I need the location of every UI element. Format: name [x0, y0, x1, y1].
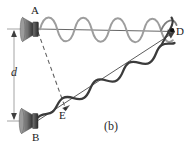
label-point-e: E [59, 110, 66, 121]
dashed-line-A-to-E [38, 32, 66, 109]
point-marker-D [170, 28, 174, 32]
label-point-d: D [176, 26, 184, 37]
loudspeaker-icon-A [20, 17, 38, 41]
label-separation-d: d [11, 66, 17, 78]
sound-wave-lower [34, 43, 175, 124]
loudspeaker-icon-B [19, 108, 38, 133]
figure-caption: (b) [104, 120, 118, 132]
label-speaker-b: B [32, 132, 39, 143]
wave-tail-upper [161, 20, 177, 30]
label-speaker-a: A [31, 5, 39, 16]
figure-canvas [0, 0, 190, 148]
physics-figure-two-speakers: A B D E d (b) [0, 0, 190, 148]
